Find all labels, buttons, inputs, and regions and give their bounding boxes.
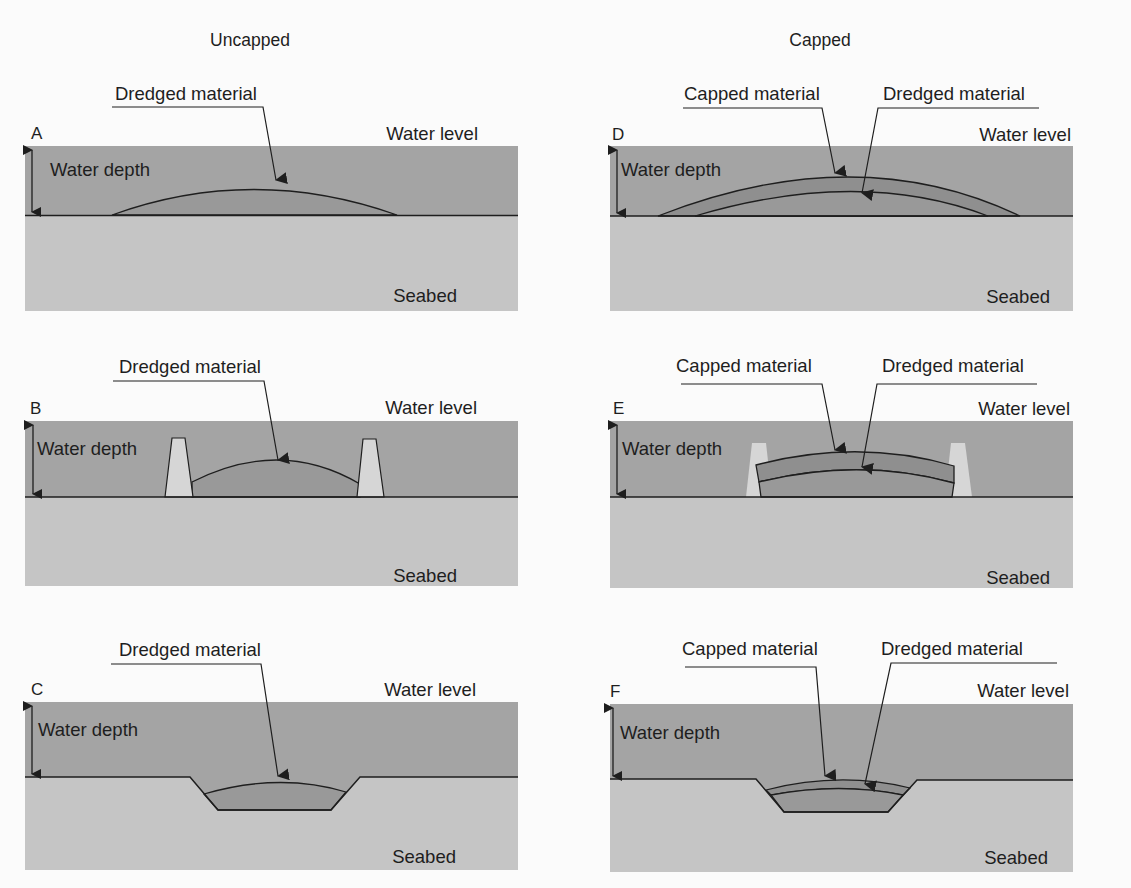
dredged-material-disposal-diagram: Uncapped Capped A Water depth Water leve… <box>0 0 1131 888</box>
seabed-label: Seabed <box>392 846 456 867</box>
water-level-label: Water level <box>386 123 478 144</box>
panel-e: E Water depth Water level Seabed Capped … <box>610 355 1073 588</box>
panel-letter: E <box>613 399 624 418</box>
seabed-label: Seabed <box>984 847 1048 868</box>
panel-a: A Water depth Water level Seabed Dredged… <box>25 83 518 311</box>
panel-letter: C <box>31 680 43 699</box>
water-depth-label: Water depth <box>37 438 137 459</box>
water-depth-label: Water depth <box>50 159 150 180</box>
dredged-material-label: Dredged material <box>882 355 1024 376</box>
seabed-label: Seabed <box>393 565 457 586</box>
capped-material-label: Capped material <box>676 355 812 376</box>
panel-letter: F <box>610 682 620 701</box>
panel-f: F Water depth Water level Seabed Capped … <box>610 638 1073 872</box>
water-level-label: Water level <box>384 679 476 700</box>
water-level-label: Water level <box>978 398 1070 419</box>
water-depth-label: Water depth <box>622 438 722 459</box>
dredged-material-fill <box>771 789 903 813</box>
column-title-uncapped: Uncapped <box>210 30 290 50</box>
water-depth-label: Water depth <box>620 722 720 743</box>
panel-letter: B <box>30 399 41 418</box>
panel-b: B Water depth Water level Seabed Dredged… <box>25 356 518 586</box>
dredged-material-label: Dredged material <box>115 83 257 104</box>
panel-d: D Water depth Water level Seabed Capped … <box>610 83 1073 311</box>
water-depth-label: Water depth <box>621 159 721 180</box>
water-depth-label: Water depth <box>38 719 138 740</box>
water-level-label: Water level <box>385 397 477 418</box>
water-level-label: Water level <box>977 680 1069 701</box>
dredged-material-label: Dredged material <box>883 83 1025 104</box>
dredged-material-label: Dredged material <box>119 356 261 377</box>
panel-c: C Water depth Water level Seabed Dredged… <box>25 639 518 870</box>
seabed-label: Seabed <box>986 567 1050 588</box>
panel-letter: A <box>31 124 43 143</box>
seabed-label: Seabed <box>986 286 1050 307</box>
water-level-label: Water level <box>979 124 1071 145</box>
capped-material-label: Capped material <box>682 638 818 659</box>
dredged-material-label: Dredged material <box>119 639 261 660</box>
seabed-label: Seabed <box>393 285 457 306</box>
panel-letter: D <box>612 125 624 144</box>
dredged-material-label: Dredged material <box>881 638 1023 659</box>
capped-material-label: Capped material <box>684 83 820 104</box>
column-title-capped: Capped <box>789 30 850 50</box>
